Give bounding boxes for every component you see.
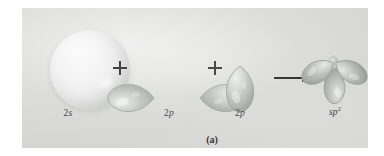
sp2-hybrid-label: sp2 (329, 107, 341, 117)
plus-sign-2 (208, 61, 222, 75)
p-orbital-horizontal-label: 2p (164, 108, 174, 118)
p-orbital-lobe-left (108, 83, 154, 113)
p-orbital-lobe-bottom (225, 66, 255, 112)
figure-caption: (a) (206, 134, 218, 145)
s-orbital-label: 2s (64, 108, 73, 118)
p-orbital-vertical-label: 2p (235, 108, 245, 118)
figure-root: 2s (0, 0, 384, 156)
figure-panel: 2s (22, 8, 368, 148)
plus-sign-1 (113, 61, 127, 75)
